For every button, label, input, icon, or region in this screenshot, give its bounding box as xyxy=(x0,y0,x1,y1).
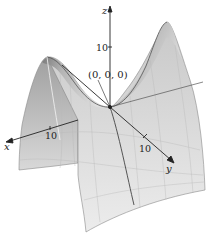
x-axis-tick-label: 10 xyxy=(45,130,57,141)
z-axis-arrow-icon xyxy=(108,6,112,12)
y-axis-tick-label: 10 xyxy=(139,143,151,154)
z-axis-tick-label: 10 xyxy=(96,42,108,53)
z-axis-label: z xyxy=(101,5,108,16)
origin-point xyxy=(108,105,111,108)
saddle-surface xyxy=(19,22,205,232)
origin-label: (0, 0, 0) xyxy=(88,69,128,80)
y-axis-label: y xyxy=(165,163,172,174)
origin-leader xyxy=(98,80,110,107)
x-axis-label: x xyxy=(4,141,10,152)
saddle-surface-figure: z 10 (0, 0, 0) x 10 y 10 xyxy=(0,0,209,238)
